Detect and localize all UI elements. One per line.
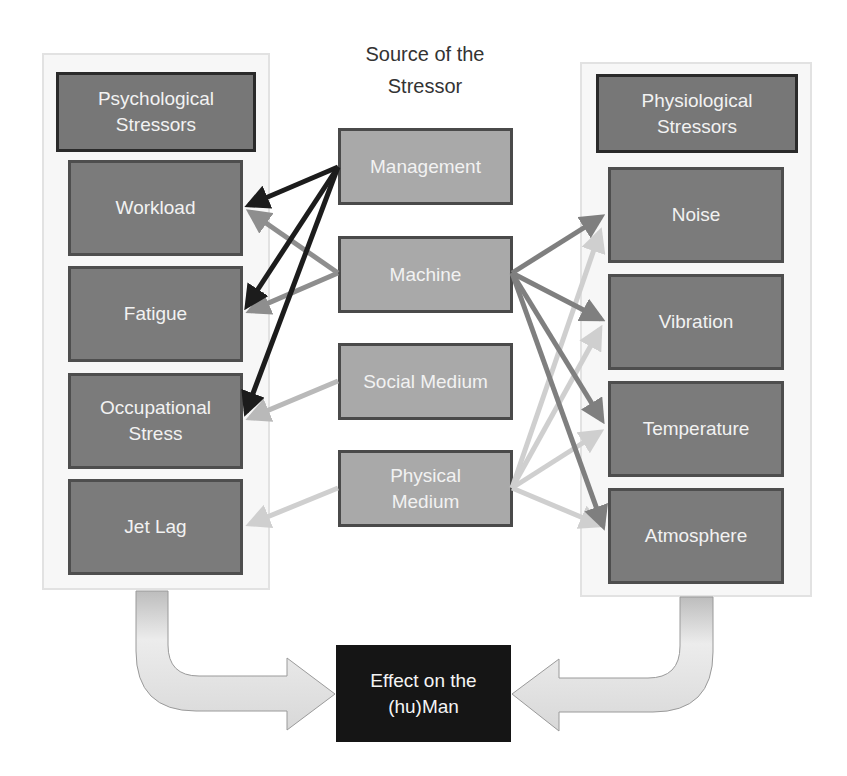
- arrow-physical-jetlag: [250, 488, 338, 524]
- arrow-physical-atmosphere: [512, 488, 600, 525]
- connection-arrows-layer: [0, 0, 847, 776]
- arrow-physical-noise: [512, 232, 600, 488]
- arrow-social-occupational: [250, 381, 338, 418]
- arrow-machine-workload: [250, 212, 338, 273]
